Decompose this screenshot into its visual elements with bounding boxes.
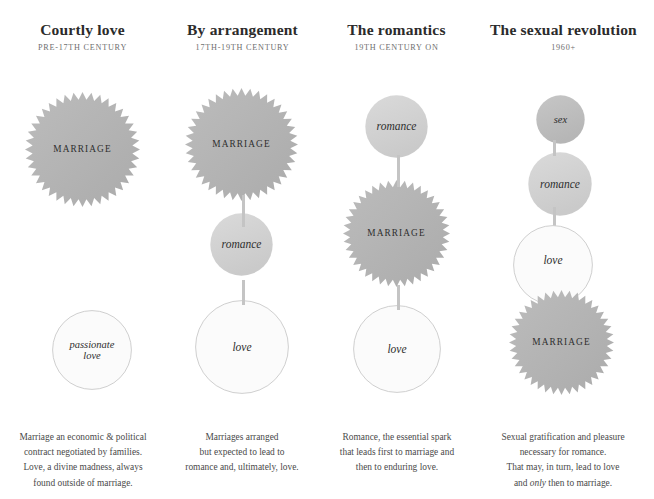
column-caption: Sexual gratification and pleasure necess… <box>471 430 654 491</box>
node-marriage[interactable]: Marriage <box>25 92 140 207</box>
node-love[interactable]: love <box>195 300 289 394</box>
caption-line: Love, a divine madness, always <box>4 460 162 475</box>
column-header: Courtly love Pre-17th century <box>0 22 165 52</box>
node-marriage[interactable]: Marriage <box>343 180 450 287</box>
caption-line: found outside of marriage. <box>4 476 162 491</box>
column-subtitle: Pre-17th century <box>0 43 165 52</box>
column-title: Courtly love <box>0 22 165 38</box>
column-header: The romantics 19th century on <box>320 22 473 52</box>
column-courtly-love: Courtly love Pre-17th century Marriage p… <box>0 0 165 499</box>
connector-marriage-love <box>397 285 400 310</box>
column-title: The sexual revolution <box>473 22 654 38</box>
caption-line: necessary for romance. <box>471 445 654 460</box>
caption-line: then to enduring love. <box>318 460 476 475</box>
caption-line: Sexual gratification and pleasure <box>471 430 654 445</box>
circle-icon <box>536 95 585 144</box>
connector-sex-romance <box>553 140 556 156</box>
column-the-sexual-revolution: The sexual revolution 1960+ sex romance <box>473 0 654 499</box>
circle-icon <box>365 95 428 158</box>
column-the-romantics: The romantics 19th century on romance Ma… <box>320 0 473 499</box>
circle-icon <box>52 310 132 390</box>
connector-romance-marriage <box>397 155 400 187</box>
starburst-icon <box>343 180 450 287</box>
connector-romance-love <box>242 280 245 305</box>
circle-icon <box>528 152 592 216</box>
caption-line: romance and, ultimately, love. <box>162 460 322 475</box>
caption-line: Romance, the essential spark <box>318 430 476 445</box>
column-title: By arrangement <box>165 22 320 38</box>
column-by-arrangement: By arrangement 17th-19th century Marriag… <box>165 0 320 499</box>
caption-line: but expected to lead to <box>162 445 322 460</box>
column-subtitle: 17th-19th century <box>165 43 320 52</box>
node-romance[interactable]: romance <box>365 95 428 158</box>
node-sex[interactable]: sex <box>536 95 585 144</box>
circle-icon <box>195 300 289 394</box>
column-title: The romantics <box>320 22 473 38</box>
node-romance[interactable]: romance <box>528 152 592 216</box>
starburst-icon <box>25 92 140 207</box>
column-header: The sexual revolution 1960+ <box>473 22 654 52</box>
caption-line: that leads first to marriage and <box>318 445 476 460</box>
node-marriage[interactable]: Marriage <box>509 290 614 395</box>
caption-line: That may, in turn, lead to love <box>471 460 654 475</box>
column-header: By arrangement 17th-19th century <box>165 22 320 52</box>
caption-line-emphasis: and only then to marriage. <box>471 476 654 491</box>
starburst-icon <box>185 88 298 201</box>
column-caption: Romance, the essential spark that leads … <box>318 430 476 476</box>
starburst-icon <box>509 290 614 395</box>
column-caption: Marriage an economic & political contrac… <box>4 430 162 491</box>
column-subtitle: 19th century on <box>320 43 473 52</box>
column-subtitle: 1960+ <box>473 43 654 52</box>
node-marriage[interactable]: Marriage <box>185 88 298 201</box>
node-passionate-love[interactable]: passionate love <box>52 310 132 390</box>
circle-icon <box>353 305 441 393</box>
caption-line: contract negotiated by families. <box>4 445 162 460</box>
node-love[interactable]: love <box>353 305 441 393</box>
column-caption: Marriages arranged but expected to lead … <box>162 430 322 476</box>
caption-line: Marriage an economic & political <box>4 430 162 445</box>
infographic-canvas: Courtly love Pre-17th century Marriage p… <box>0 0 654 499</box>
connector-marriage-romance <box>242 195 245 227</box>
caption-line: Marriages arranged <box>162 430 322 445</box>
